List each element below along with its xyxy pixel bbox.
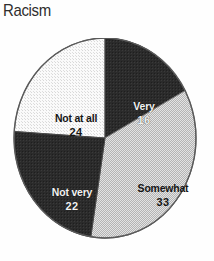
pie-label-somewhat-value: 33 xyxy=(119,196,206,209)
pie-label-not-at-all-name: Not at all xyxy=(37,112,115,125)
pie-label-not-very-name: Not very xyxy=(37,186,107,199)
pie-label-not-very-value: 22 xyxy=(37,200,107,213)
pie-label-not-at-all-value: 24 xyxy=(37,126,115,139)
pie-label-very-value: 16 xyxy=(118,114,169,127)
pie-label-very-name: Very xyxy=(118,100,169,113)
chart-page: Racism xyxy=(0,0,214,261)
pie-label-somewhat: Somewhat 33 xyxy=(119,182,206,208)
pie-slice-not-very xyxy=(14,132,105,238)
pie-label-not-at-all: Not at all 24 xyxy=(37,112,115,138)
pie-chart: Very 16 Somewhat 33 Not very 22 Not at a… xyxy=(13,38,197,241)
pie-label-very: Very 16 xyxy=(118,100,169,126)
pie-label-somewhat-name: Somewhat xyxy=(119,182,206,195)
pie-label-not-very: Not very 22 xyxy=(37,186,107,212)
page-title: Racism xyxy=(3,1,51,21)
